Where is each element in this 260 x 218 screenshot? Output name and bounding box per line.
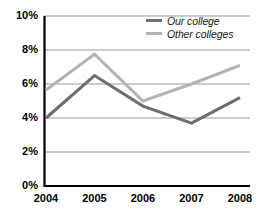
x-axis-tick-label: 2004 <box>26 192 66 204</box>
line-swatch-light-icon <box>146 32 162 35</box>
chart-legend: Our college Other colleges <box>146 14 252 40</box>
y-axis-tick-label: 6% <box>0 77 38 89</box>
y-axis-tick-label: 0% <box>0 179 38 191</box>
y-axis-tick-label: 4% <box>0 111 38 123</box>
legend-label-our-college: Our college <box>167 15 220 27</box>
data-series-group <box>46 54 240 123</box>
legend-label-other-colleges: Other colleges <box>167 28 233 40</box>
y-axis-tick-label: 8% <box>0 43 38 55</box>
x-axis-tick-label: 2005 <box>75 192 115 204</box>
line-chart: 10%8%6%4%2%0% 20042005200620072008 Our c… <box>0 0 260 218</box>
x-axis-tick-label: 2008 <box>220 192 260 204</box>
x-axis-tick-label: 2007 <box>172 192 212 204</box>
legend-item-other-colleges: Other colleges <box>146 27 252 40</box>
x-axis-tick-label: 2006 <box>123 192 163 204</box>
line-swatch-dark-icon <box>146 19 162 22</box>
y-axis-tick-label: 2% <box>0 145 38 157</box>
y-axis-tick-label: 10% <box>0 9 38 21</box>
legend-item-our-college: Our college <box>146 14 252 27</box>
